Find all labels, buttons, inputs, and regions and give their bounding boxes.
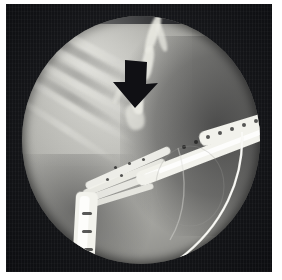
scope-marking xyxy=(254,119,258,123)
scope-marking xyxy=(242,123,246,127)
radiograph-frame xyxy=(6,4,272,272)
scope-ring-gap xyxy=(120,174,123,177)
scope-marking xyxy=(218,131,222,135)
fluoroscopic-field xyxy=(22,16,260,264)
arrow-down-icon xyxy=(113,60,159,109)
screenshot-root xyxy=(0,0,282,280)
scope-tip-marking xyxy=(82,212,92,215)
scope-ring-gap xyxy=(142,158,145,161)
scope-marking xyxy=(194,140,198,144)
scope-marking xyxy=(230,127,234,131)
scope-tip-marking xyxy=(82,230,92,233)
annotation-arrow-icon xyxy=(113,60,159,109)
scope-ring-gap xyxy=(106,178,109,181)
scope-marking xyxy=(182,145,186,149)
scope-ring-gap xyxy=(114,166,117,169)
scope-ring-gap xyxy=(128,162,131,165)
scope-marking xyxy=(206,135,210,139)
scope-tip-marking xyxy=(84,248,93,251)
